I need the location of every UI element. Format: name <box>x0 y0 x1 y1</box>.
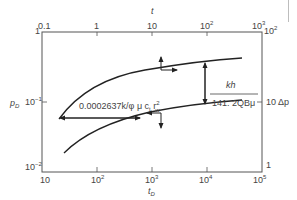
bottom-tick-2: 103 <box>145 174 159 185</box>
pressure-match-denominator: 141. 2QBμ <box>212 98 255 108</box>
left-tick-mid: 10−1 <box>25 96 43 107</box>
top-tick-3: 102 <box>200 20 214 31</box>
top-tick-1: 1 <box>94 21 99 31</box>
top-tick-2: 10 <box>147 21 157 31</box>
bottom-axis-title: tD <box>148 186 156 197</box>
type-curve-chart: t 0.1 1 10 102 103 1 10−1 10−2 pD 102 10… <box>0 0 297 200</box>
time-match-label: 0.0002637k/φ μ ct r2w <box>79 100 161 113</box>
left-axis-title: pD <box>9 98 20 109</box>
top-axis-ticks <box>97 32 207 36</box>
left-tick-top: 1 <box>35 26 40 36</box>
bottom-tick-3: 104 <box>199 174 213 185</box>
pressure-match-numerator: kh <box>226 80 236 90</box>
top-axis-title: t <box>151 6 154 16</box>
right-tick-top: 102 <box>264 25 278 36</box>
right-axis-title: 10 Δp <box>266 97 289 107</box>
left-tick-bottom: 10−2 <box>25 161 43 172</box>
right-tick-bottom: 1 <box>266 160 271 170</box>
bottom-tick-0: 10 <box>40 175 50 185</box>
bottom-tick-1: 102 <box>91 174 105 185</box>
bottom-tick-4: 105 <box>253 174 267 185</box>
bottom-axis-ticks <box>97 167 207 172</box>
